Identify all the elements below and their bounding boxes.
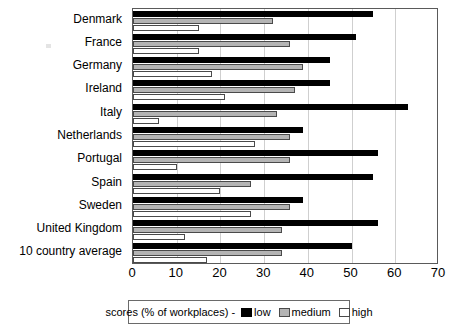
- x-tick-label: 20: [212, 266, 226, 280]
- y-axis-label: Spain: [91, 176, 122, 188]
- legend-swatch-high: [339, 308, 350, 317]
- x-tick-label: 0: [128, 266, 135, 280]
- legend-entry-medium: medium: [279, 306, 331, 318]
- plot-area: [132, 8, 438, 264]
- bar-group: [133, 242, 437, 265]
- bar-spacer: [133, 117, 437, 118]
- y-axis-label: France: [85, 36, 122, 48]
- y-axis-label: Sweden: [79, 199, 122, 211]
- bar-high: [133, 141, 255, 147]
- bar-group: [133, 125, 437, 148]
- bar-high: [133, 234, 185, 240]
- legend-label: high: [352, 306, 373, 318]
- y-axis-label: Netherlands: [57, 129, 122, 141]
- x-axis-tick-labels: 010203040506070: [0, 266, 460, 284]
- bar-group: [133, 9, 437, 32]
- legend-entry-low: low: [241, 306, 271, 318]
- bar-high: [133, 257, 207, 263]
- bar-high: [133, 48, 199, 54]
- bar-rows: [133, 9, 437, 263]
- y-axis-label: Denmark: [73, 13, 122, 25]
- legend-entry-high: high: [339, 306, 373, 318]
- legend-entries: lowmediumhigh: [241, 306, 372, 318]
- bar-chart: DenmarkFranceGermanyIrelandItalyNetherla…: [0, 0, 460, 336]
- bar-group: [133, 56, 437, 79]
- bar-high: [133, 211, 251, 217]
- bar-high: [133, 94, 225, 100]
- bar-group: [133, 195, 437, 218]
- legend-swatch-low: [241, 308, 252, 317]
- y-axis-labels: DenmarkFranceGermanyIrelandItalyNetherla…: [0, 8, 128, 264]
- y-axis-label: Italy: [100, 106, 122, 118]
- y-axis-label: Portugal: [77, 152, 122, 164]
- y-axis-label: 10 country average: [19, 245, 122, 257]
- bar-high: [133, 25, 199, 31]
- bar-group: [133, 172, 437, 195]
- bar-high: [133, 118, 159, 124]
- bar-group: [133, 32, 437, 55]
- bar-group: [133, 218, 437, 241]
- bar-high: [133, 188, 220, 194]
- y-axis-label: United Kingdom: [37, 222, 122, 234]
- x-tick-label: 40: [300, 266, 314, 280]
- legend-swatch-medium: [279, 308, 290, 317]
- legend-label: medium: [292, 306, 331, 318]
- bar-group: [133, 149, 437, 172]
- legend-label: low: [254, 306, 271, 318]
- chart-legend: scores (% of workplaces) - lowmediumhigh: [128, 300, 350, 324]
- bar-group: [133, 102, 437, 125]
- bar-high: [133, 71, 212, 77]
- x-tick-label: 30: [256, 266, 270, 280]
- bar-group: [133, 79, 437, 102]
- x-tick-label: 70: [431, 266, 445, 280]
- y-axis-label: Ireland: [85, 82, 122, 94]
- x-tick-label: 60: [387, 266, 401, 280]
- bar-spacer: [133, 163, 437, 164]
- bar-high: [133, 164, 177, 170]
- x-tick-label: 50: [343, 266, 357, 280]
- x-tick-label: 10: [168, 266, 182, 280]
- legend-title: scores (% of workplaces) -: [105, 306, 235, 318]
- y-axis-label: Germany: [73, 59, 122, 71]
